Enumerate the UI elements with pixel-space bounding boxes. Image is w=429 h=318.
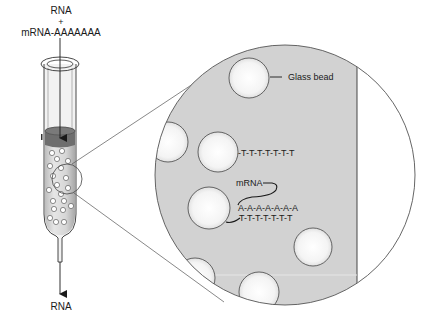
glass-bead xyxy=(198,132,238,172)
oligo-dt-column-diagram: RNA + mRNA-AAAAAAA xyxy=(0,0,429,318)
glass-bead xyxy=(239,272,279,312)
glass-bead xyxy=(188,187,230,229)
oligo-dt-label: -T-T-T-T-T-T-T xyxy=(238,148,295,158)
magnified-view xyxy=(148,40,415,312)
glass-bead xyxy=(294,228,332,266)
hybridized-oligo-dt-label: T-T-T-T-T-T-T xyxy=(239,213,293,223)
glass-bead xyxy=(175,258,215,298)
poly-a-tail-label: A-A-A-A-A-A-A xyxy=(238,203,298,213)
output-label-rna: RNA xyxy=(50,301,71,312)
input-label-rna: RNA xyxy=(50,5,71,16)
input-plus-sign: + xyxy=(58,17,63,27)
glass-bead xyxy=(148,122,188,162)
glass-bead xyxy=(229,58,269,98)
mrna-label: mRNA xyxy=(236,178,263,188)
glass-bead-label: Glass bead xyxy=(288,72,334,82)
input-label-mrna-polya: mRNA-AAAAAAA xyxy=(21,27,101,38)
